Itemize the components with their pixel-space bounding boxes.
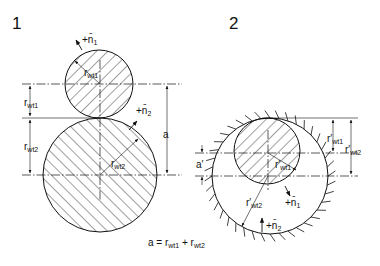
pinion-2-speed-label: +n̄1 [285,196,300,209]
hatch-tick [327,181,335,185]
hatch-tick [322,201,331,202]
hatch-tick [325,191,334,194]
figure-2-internal-gears: 2 r′wt1 +n̄1 r′wt2 +n̄2 a′ r [195,14,361,241]
gear-speed-label: +n̄2 [136,104,151,117]
hatch-tick [261,233,265,241]
hatch-tick [255,112,261,119]
hatch-tick [275,111,279,119]
hatch-tick [227,126,235,129]
hatch-tick [311,126,313,135]
hatch-tick [279,233,285,240]
gear-pitch-circle-diagram: 1 rwt1 +n̄1 rwt2 +n̄2 rwt1 rwt2 a a = [0,0,380,266]
hatch-tick [214,202,218,210]
hatch-tick [322,142,326,150]
figure-1-label: 1 [12,14,21,33]
hatch-tick [227,217,229,226]
hatch-tick [236,120,244,124]
hatch-tick [325,151,330,158]
pinion-pitch-circle [65,50,133,118]
hatch-tick [220,210,223,218]
dim-r-wt2-prime-label: r′wt2 [345,144,361,156]
dim-r-wt1-prime-label: r′wt1 [327,133,343,145]
hatch-tick [220,133,229,135]
hatch-tick [265,111,270,118]
pinion-2-rotation-arrow [285,186,290,196]
hatch-tick [205,167,213,171]
dim-r-wt1-label: rwt1 [24,97,38,109]
hatch-tick [206,158,215,161]
hatch-tick [244,228,245,237]
hatch-tick [304,223,312,226]
hatch-tick [311,217,320,219]
hatch-tick [327,161,334,167]
hatch-tick [209,194,214,201]
center-distance-formula: a = rwt1 + rwt2 [148,237,205,249]
dim-a-prime-label: a′ [196,159,204,170]
hatch-tick [252,231,255,240]
hatch-tick [317,133,320,141]
hatch-tick [285,112,288,121]
hatch-tick [270,234,275,241]
ring-gear-speed-label: +n̄2 [266,219,281,232]
ring-gear-radius-label: r′wt2 [246,197,262,209]
figure-1-external-gears: 1 rwt1 +n̄1 rwt2 +n̄2 rwt1 rwt2 a a = [12,14,205,249]
hatch-tick [328,171,335,176]
hatch-tick [206,185,213,191]
hatch-tick [295,115,296,124]
hatch-tick [296,228,304,232]
figure-2-label: 2 [229,14,238,33]
hatch-tick [209,150,218,151]
pinion-2-pitch-circle [234,118,300,184]
dim-r-wt2-label: rwt2 [24,141,38,153]
hatch-tick [288,231,295,236]
hatch-tick [205,176,212,181]
dim-center-distance-label: a [163,129,169,140]
pinion-speed-label: +n̄1 [82,33,97,46]
hatch-tick [245,115,252,120]
